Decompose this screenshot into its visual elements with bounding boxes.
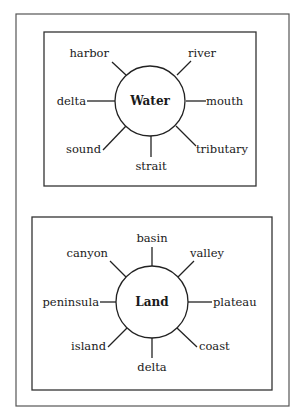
label-delta: delta: [57, 94, 86, 108]
spoke-valley: [178, 261, 194, 277]
spoke-coast: [177, 328, 197, 347]
label-basin: basin: [136, 231, 168, 245]
land-center-label: Land: [135, 295, 169, 309]
water-word-web: Water harbor river delta mouth sound str…: [44, 32, 256, 186]
label-river: river: [188, 46, 216, 60]
spoke-tributary: [176, 126, 196, 146]
land-word-web: Land basin canyon valley peninsula plate…: [32, 217, 272, 390]
label-harbor: harbor: [69, 46, 109, 60]
label-tributary: tributary: [196, 142, 249, 156]
label-strait: strait: [135, 159, 167, 173]
label-canyon: canyon: [66, 246, 108, 260]
label-delta-land: delta: [137, 360, 166, 374]
label-peninsula: peninsula: [42, 295, 99, 309]
label-valley: valley: [189, 246, 225, 260]
label-mouth: mouth: [206, 94, 244, 108]
label-plateau: plateau: [213, 295, 257, 309]
spoke-sound: [103, 126, 126, 150]
label-coast: coast: [199, 339, 230, 353]
spoke-harbor: [112, 62, 126, 75]
spoke-island: [108, 328, 127, 347]
spoke-canyon: [110, 261, 126, 277]
label-sound: sound: [66, 142, 102, 156]
spoke-river: [177, 61, 191, 75]
word-web-figure: Water harbor river delta mouth sound str…: [0, 0, 300, 413]
label-island: island: [71, 339, 107, 353]
water-center-label: Water: [129, 94, 170, 108]
